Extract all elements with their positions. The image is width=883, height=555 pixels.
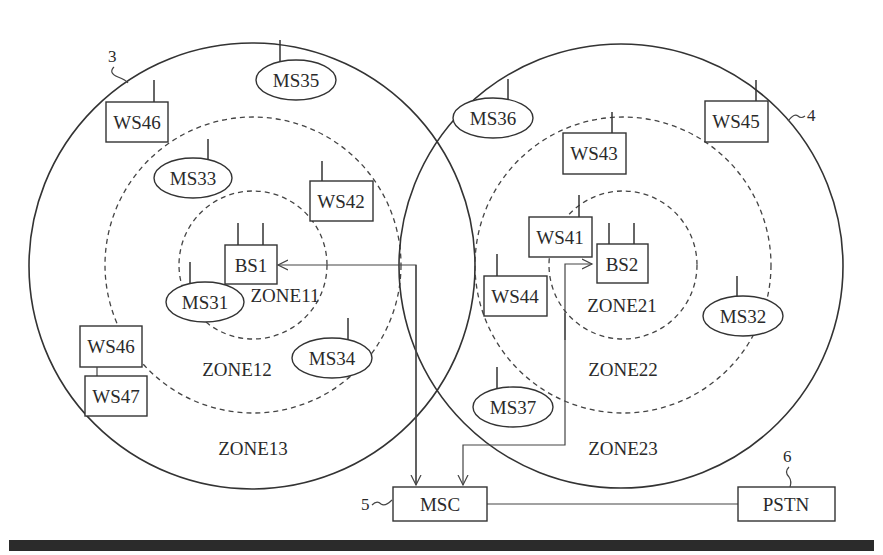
ws42-label: WS42 [317, 191, 365, 212]
msc-label: MSC [420, 494, 460, 515]
mobile-station-ms37[interactable]: MS37 [473, 367, 553, 427]
pstn-label: PSTN [763, 494, 810, 515]
ref-3-leader [112, 67, 128, 83]
ws46-label: WS46 [113, 112, 161, 133]
network-diagram: 3 4 BS1 BS2 MS35 MS33 MS31 MS34 [0, 0, 883, 555]
bs2-label: BS2 [606, 254, 639, 275]
ms31-label: MS31 [182, 292, 228, 313]
ref-6-label: 6 [783, 447, 792, 466]
bottom-rule [9, 540, 874, 551]
ref-5-label: 5 [361, 495, 370, 514]
ws47-label: WS47 [92, 386, 140, 407]
mobile-station-ms32[interactable]: MS32 [703, 276, 783, 336]
zone13-label: ZONE13 [218, 438, 288, 459]
zone22-label: ZONE22 [588, 359, 658, 380]
ms37-label: MS37 [490, 397, 536, 418]
ws45-label: WS45 [712, 111, 760, 132]
wireless-station-ws47[interactable]: WS47 [85, 376, 147, 416]
wireless-station-ws41[interactable]: WS41 [529, 195, 592, 257]
mobile-station-ms34[interactable]: MS34 [292, 318, 372, 378]
ms36-label: MS36 [470, 108, 516, 129]
mobile-station-ms33[interactable]: MS33 [154, 139, 232, 198]
ms34-label: MS34 [309, 348, 356, 369]
base-station-bs2[interactable]: BS2 [597, 223, 648, 283]
ref-5-leader [372, 500, 392, 505]
ms32-label: MS32 [720, 306, 766, 327]
zone12-label: ZONE12 [202, 359, 272, 380]
ws44-label: WS44 [491, 286, 539, 307]
zone11-label: ZONE11 [251, 285, 320, 306]
bs1-label: BS1 [235, 255, 268, 276]
mobile-station-ms36[interactable]: MS36 [453, 79, 533, 138]
wireless-station-ws44[interactable]: WS44 [484, 254, 547, 316]
base-station-bs1[interactable]: BS1 [225, 223, 277, 284]
ref-6-leader [787, 467, 791, 487]
pstn-node[interactable]: PSTN [738, 487, 835, 521]
ws41-label: WS41 [536, 227, 584, 248]
wireless-station-ws43[interactable]: WS43 [563, 112, 626, 174]
ws46-label: WS46 [87, 336, 135, 357]
ref-4-label: 4 [807, 106, 816, 125]
mobile-station-ms35[interactable]: MS35 [256, 40, 336, 100]
msc-node[interactable]: MSC [393, 487, 487, 521]
zone23-label: ZONE23 [588, 438, 658, 459]
wireless-station-ws45[interactable]: WS45 [705, 80, 768, 142]
wireless-station-ws42[interactable]: WS42 [310, 161, 373, 221]
ms35-label: MS35 [273, 70, 319, 91]
ref-3-label: 3 [108, 47, 117, 66]
ms33-label: MS33 [170, 168, 216, 189]
ref-4-leader [788, 115, 805, 121]
ws43-label: WS43 [570, 143, 618, 164]
zone21-label: ZONE21 [587, 295, 657, 316]
wireless-station-ws46-left[interactable]: WS46 [80, 326, 142, 367]
